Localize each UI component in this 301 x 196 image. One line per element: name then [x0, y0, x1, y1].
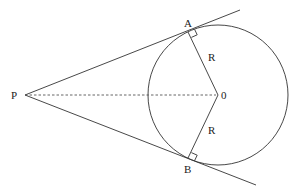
point-label-o: 0: [221, 89, 227, 101]
tangent-circle-diagram: P 0 A B R R: [0, 0, 301, 196]
point-label-p: P: [11, 89, 17, 101]
radius-label-upper: R: [208, 51, 216, 63]
point-label-a: A: [184, 17, 192, 29]
radius-label-lower: R: [208, 124, 216, 136]
tangent-line-pb: [25, 95, 256, 185]
radius-oa: [188, 32, 218, 95]
right-angle-mark-b: [191, 153, 197, 161]
point-label-b: B: [184, 163, 191, 175]
right-angle-mark-a: [191, 29, 197, 37]
